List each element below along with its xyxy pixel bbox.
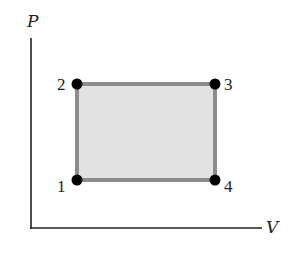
state-point-label-4: 4 <box>224 177 233 196</box>
state-point-label-3: 3 <box>224 75 233 94</box>
state-point-3 <box>210 79 221 90</box>
cycle-region <box>77 84 215 180</box>
pv-diagram: P V 1234 <box>0 0 292 255</box>
state-point-label-1: 1 <box>57 177 66 196</box>
state-point-1 <box>72 175 83 186</box>
state-point-2 <box>72 79 83 90</box>
y-axis-label: P <box>26 11 39 31</box>
state-point-label-2: 2 <box>57 75 66 94</box>
state-point-4 <box>210 175 221 186</box>
x-axis-label: V <box>266 217 280 237</box>
